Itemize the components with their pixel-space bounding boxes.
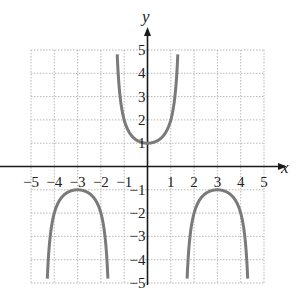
x-tick-label: 1	[167, 174, 175, 190]
y-tick-label: 3	[138, 89, 146, 105]
x-tick-label: −4	[46, 174, 62, 190]
x-tick-label: 4	[237, 174, 245, 190]
y-tick-label: 5	[138, 42, 146, 58]
y-tick-label: 2	[138, 112, 146, 128]
x-tick-label: 5	[260, 174, 268, 190]
x-tick-label: −3	[70, 174, 86, 190]
y-tick-label: −5	[130, 275, 146, 291]
graph-plot: −5−4−3−2−112345 54321−1−2−3−4−5 x y	[0, 0, 299, 302]
x-tick-label: −2	[93, 174, 109, 190]
y-tick-label: −4	[130, 252, 146, 268]
y-tick-label: −1	[130, 182, 146, 198]
y-tick-label: −3	[130, 228, 146, 244]
y-tick-label: −2	[130, 205, 146, 221]
y-tick-label: 1	[138, 135, 146, 151]
x-tick-label: 2	[190, 174, 198, 190]
x-tick-label: 3	[214, 174, 222, 190]
x-tick-label: −5	[23, 174, 39, 190]
y-axis-arrow-icon	[144, 27, 151, 36]
y-tick-label: 4	[138, 65, 146, 81]
y-axis-label: y	[140, 7, 150, 26]
x-axis-label: x	[280, 158, 289, 177]
